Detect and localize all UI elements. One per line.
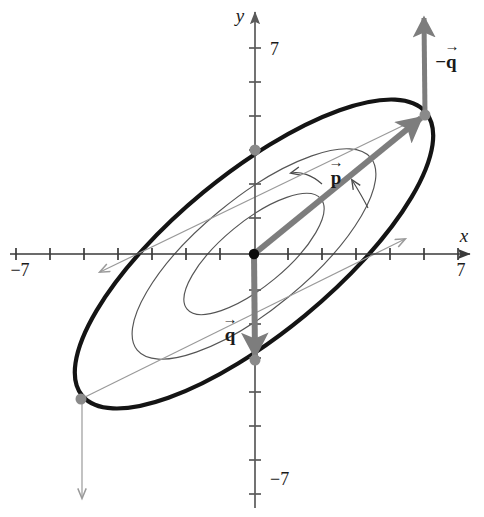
- axes-group: [10, 12, 470, 508]
- vector-negative-q-label: → −q: [435, 38, 459, 72]
- y-axis-label: y: [234, 5, 245, 26]
- vector-p-label-text: p: [331, 167, 342, 188]
- vector-negative-q-label-text: −q: [435, 51, 457, 72]
- vector-p-label: → p: [329, 154, 344, 188]
- vector-q-label: → q: [223, 311, 238, 345]
- x-axis-max-tick-label: 7: [457, 260, 466, 280]
- motion-arrow-middle: [352, 180, 368, 208]
- x-axis-min-tick-label: −7: [10, 260, 29, 280]
- origin-point: [249, 249, 259, 259]
- vector-q: [254, 254, 255, 356]
- phase-portrait-figure: x y −7 7 7 −7 → p → q → −q: [0, 0, 484, 517]
- ellipse-y-bottom: [250, 355, 261, 366]
- y-axis-max-tick-label: 7: [270, 39, 279, 59]
- x-axis-label: x: [459, 225, 469, 246]
- eigen-point-p: [420, 110, 431, 121]
- vector-q-label-text: q: [225, 324, 236, 345]
- eigen-point-negp: [76, 394, 87, 405]
- phase-portrait-canvas: x y −7 7 7 −7 → p → q → −q: [0, 0, 484, 517]
- vector-negative-q: [424, 18, 425, 115]
- ellipse-y-top: [250, 145, 261, 156]
- motion-arrow-inner: [291, 172, 322, 184]
- y-axis-min-tick-label: −7: [270, 469, 289, 489]
